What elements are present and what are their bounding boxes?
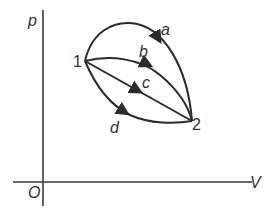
origin-label: O bbox=[28, 184, 40, 201]
path-c-label: c bbox=[142, 74, 150, 91]
point-2-label: 2 bbox=[192, 116, 201, 133]
point-1-label: 1 bbox=[73, 53, 82, 70]
path-a bbox=[85, 23, 192, 121]
arrow-c-icon bbox=[133, 88, 137, 90]
arrow-b-icon bbox=[143, 62, 147, 64]
x-axis-label: V bbox=[250, 174, 262, 191]
path-b-label: b bbox=[139, 43, 148, 60]
path-a-label: a bbox=[161, 21, 170, 38]
path-d-label: d bbox=[110, 119, 120, 136]
pv-diagram: p O V 1 2 a b c d bbox=[0, 0, 269, 217]
y-axis-label: p bbox=[27, 12, 37, 29]
arrow-d-icon bbox=[120, 109, 124, 112]
